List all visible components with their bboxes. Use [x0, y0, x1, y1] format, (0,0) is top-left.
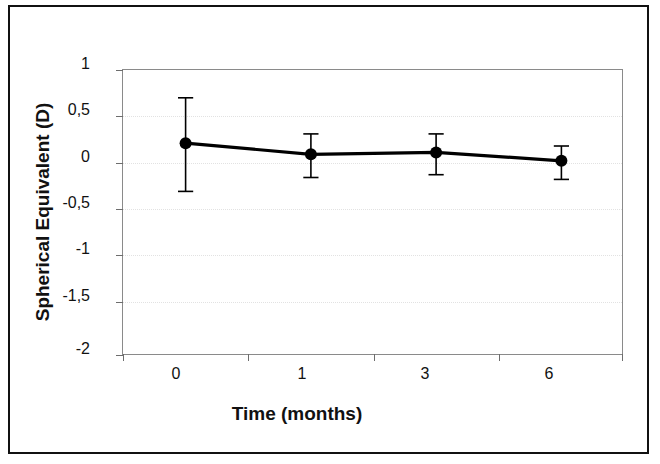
x-axis-title: Time (months): [122, 403, 472, 425]
x-tick-label: 0: [172, 365, 181, 383]
data-point-marker: [555, 155, 567, 167]
series-line: [186, 143, 562, 161]
y-tick-mark: [116, 302, 123, 303]
y-axis-title: Spherical Equivalent (D): [32, 103, 54, 322]
y-tick-label: -2: [2, 340, 90, 358]
data-point-marker: [180, 137, 192, 149]
y-tick-mark: [116, 355, 123, 356]
data-series: [123, 70, 624, 356]
x-tick-label: 6: [545, 365, 554, 383]
figure: 1 0,5 0 -0,5 -1 -1,5 -2 0 1 3 6 Time (mo…: [0, 0, 660, 464]
y-tick-mark: [116, 255, 123, 256]
x-tick-label: 1: [298, 365, 307, 383]
y-tick-label: 1: [2, 55, 90, 73]
figure-border: 1 0,5 0 -0,5 -1 -1,5 -2 0 1 3 6 Time (mo…: [8, 5, 649, 454]
y-tick-mark: [116, 163, 123, 164]
y-tick-mark: [116, 70, 123, 71]
error-bar-group: [178, 98, 569, 192]
x-tick-label: 3: [421, 365, 430, 383]
plot-area: [122, 69, 623, 355]
y-tick-mark: [116, 116, 123, 117]
y-tick-mark: [116, 209, 123, 210]
data-point-marker: [305, 148, 317, 160]
data-point-marker: [430, 146, 442, 158]
